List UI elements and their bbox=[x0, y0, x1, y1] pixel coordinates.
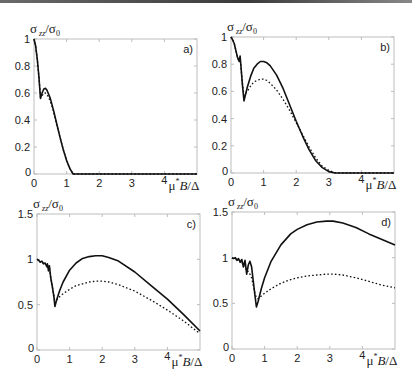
y-axis-title: σ zz/σ0 bbox=[227, 19, 257, 36]
x-tick-label: 0 bbox=[228, 176, 234, 188]
y-tick-label: 0.4 bbox=[15, 114, 30, 126]
panel-b: 00.20.40.60.8101234μ*B/Δσ zz/σ0b) bbox=[212, 19, 397, 192]
solid-curve bbox=[37, 256, 200, 331]
axes-box bbox=[34, 39, 197, 174]
y-axis-title: σ zz/σ0 bbox=[33, 196, 63, 213]
x-tick-label: 3 bbox=[327, 352, 333, 364]
y-tick-label: 1.5 bbox=[18, 208, 33, 220]
solid-curve bbox=[34, 39, 197, 174]
y-tick-label: 1 bbox=[222, 252, 228, 264]
x-tick-label: 4 bbox=[161, 174, 167, 186]
dotted-curve bbox=[232, 258, 395, 299]
x-tick-label: 2 bbox=[294, 352, 300, 364]
panel-label: a) bbox=[183, 43, 193, 55]
x-tick-label: 3 bbox=[326, 176, 332, 188]
x-tick-label: 4 bbox=[164, 350, 170, 362]
x-tick-label: 0 bbox=[31, 177, 37, 189]
y-tick-label: 1.5 bbox=[213, 206, 228, 218]
x-tick-label: 2 bbox=[99, 353, 105, 365]
axes-box bbox=[231, 37, 394, 173]
x-tick-label: 1 bbox=[261, 176, 267, 188]
panel-label: d) bbox=[381, 216, 391, 228]
y-tick-label: 0.8 bbox=[212, 58, 227, 70]
x-tick-label: 1 bbox=[262, 352, 268, 364]
dotted-curve bbox=[34, 39, 197, 174]
x-tick-label: 2 bbox=[96, 177, 102, 189]
y-tick-label: 0.8 bbox=[15, 60, 30, 72]
y-tick-label: 0.2 bbox=[212, 140, 227, 152]
x-tick-label: 1 bbox=[64, 177, 70, 189]
y-axis-title: σ zz/σ0 bbox=[228, 194, 258, 211]
x-axis-title: μ*B/Δ bbox=[365, 176, 396, 192]
x-tick-label: 4 bbox=[358, 173, 364, 185]
axes-box bbox=[37, 214, 200, 350]
x-axis-title: μ*B/Δ bbox=[171, 353, 202, 369]
x-tick-label: 3 bbox=[132, 353, 138, 365]
solid-curve bbox=[232, 221, 395, 307]
x-axis-title: μ*B/Δ bbox=[366, 352, 397, 368]
dotted-curve bbox=[231, 37, 394, 173]
y-tick-label: 1 bbox=[27, 253, 33, 265]
x-tick-label: 3 bbox=[129, 177, 135, 189]
y-tick-label: 0.6 bbox=[15, 87, 30, 99]
solid-curve bbox=[231, 37, 394, 173]
y-tick-label: 0.5 bbox=[213, 297, 228, 309]
panel-a: 00.20.40.60.8101234μ*B/Δσ zz/σ0a) bbox=[15, 21, 200, 193]
x-axis-title: μ*B/Δ bbox=[168, 177, 199, 193]
figure: 00.20.40.60.8101234μ*B/Δσ zz/σ0a) 00.20.… bbox=[0, 0, 412, 384]
panel-d: 00.511.501234μ*B/Δσ zz/σ0d) bbox=[213, 194, 398, 368]
axes-box bbox=[232, 212, 395, 349]
y-tick-label: 0.4 bbox=[212, 113, 227, 125]
x-tick-label: 4 bbox=[359, 349, 365, 361]
panel-label: b) bbox=[380, 41, 390, 53]
panel-c: 00.511.501234μ*B/Δσ zz/σ0c) bbox=[18, 196, 203, 369]
y-tick-label: 0.2 bbox=[15, 141, 30, 153]
y-tick-label: 0.5 bbox=[18, 299, 33, 311]
x-tick-label: 0 bbox=[229, 352, 235, 364]
panel-label: c) bbox=[187, 218, 196, 230]
x-tick-label: 0 bbox=[34, 353, 40, 365]
x-tick-label: 2 bbox=[293, 176, 299, 188]
y-axis-title: σ zz/σ0 bbox=[30, 21, 60, 38]
dotted-curve bbox=[37, 259, 200, 333]
y-tick-label: 0.6 bbox=[212, 85, 227, 97]
x-tick-label: 1 bbox=[67, 353, 73, 365]
